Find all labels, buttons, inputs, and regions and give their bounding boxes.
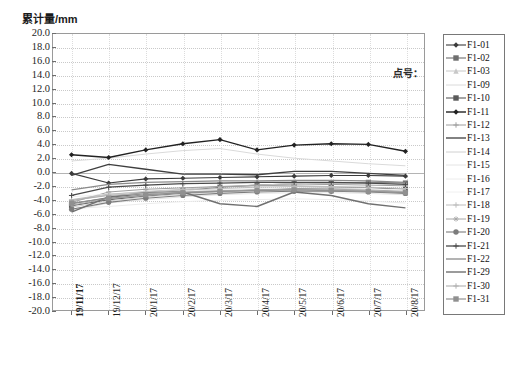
legend-item-label: F1-19 [467,213,490,225]
x-tick-label: 19/12/17 [112,283,122,317]
legend-swatch [445,92,467,104]
legend-item-F1-10[interactable]: F1-10 [444,92,504,105]
legend-item-F1-29[interactable]: F1-29 [444,266,504,279]
y-tick-label: 6.0 [4,125,50,135]
x-tick-label: 20/1/17 [149,288,159,317]
legend-swatch [445,253,467,265]
legend-swatch [445,199,467,211]
legend-item-F1-15[interactable]: F1-15 [444,159,504,172]
legend-swatch [445,132,467,144]
x-tick-mark [406,311,407,315]
y-tick-label: 12.0 [4,84,50,94]
legend-item-label: F1-18 [467,199,490,211]
legend-item-F1-20[interactable]: F1-20 [444,225,504,238]
y-tick-mark [52,255,56,256]
legend-item-F1-01[interactable]: F1-01 [444,38,504,51]
y-tick-label: -18.0 [4,292,50,302]
legend-item-F1-16[interactable]: F1-16 [444,172,504,185]
legend-item-label: F1-20 [467,226,490,238]
plot-area [52,33,425,311]
x-tick-label: 20/6/17 [336,288,346,317]
legend-item-F1-22[interactable]: F1-22 [444,252,504,265]
y-tick-label: 20.0 [4,28,50,38]
legend-swatch [445,106,467,118]
legend-item-F1-12[interactable]: F1-12 [444,118,504,131]
y-axis-tick-labels: 20.018.016.014.012.010.08.06.04.02.00.0-… [0,33,50,311]
legend-item-label: F1-12 [467,119,490,131]
legend-item-F1-02[interactable]: F1-02 [444,51,504,64]
y-tick-label: 10.0 [4,98,50,108]
y-tick-mark [52,89,56,90]
y-tick-label: 2.0 [4,153,50,163]
y-tick-mark [52,116,56,117]
legend-item-F1-18[interactable]: F1-18 [444,199,504,212]
legend-item-label: F1-17 [467,186,490,198]
x-tick-mark [257,311,258,315]
y-tick-label: -20.0 [4,306,50,316]
y-tick-label: -8.0 [4,223,50,233]
x-tick-label: 20/7/17 [373,288,383,317]
legend-swatch [445,240,467,252]
x-tick-mark [220,311,221,315]
y-tick-mark [52,75,56,76]
legend-item-label: F1-03 [467,65,490,77]
x-tick-mark [369,311,370,315]
y-tick-mark [52,61,56,62]
legend-swatch [445,280,467,292]
y-tick-mark [52,103,56,104]
y-tick-label: 0.0 [4,167,50,177]
legend-item-label: F1-10 [467,92,490,104]
legend[interactable]: F1-01F1-02F1-03F1-09F1-10F1-11F1-12F1-13… [443,34,505,315]
legend-item-F1-17[interactable]: F1-17 [444,185,504,198]
legend-item-label: F1-15 [467,159,490,171]
legend-item-F1-13[interactable]: F1-13 [444,132,504,145]
legend-swatch [445,293,467,305]
legend-swatch [445,65,467,77]
x-tick-mark [108,311,109,315]
legend-swatch [445,159,467,171]
x-tick-mark [294,311,295,315]
legend-item-F1-14[interactable]: F1-14 [444,145,504,158]
y-tick-mark [52,33,56,34]
legend-item-label: F1-14 [467,146,490,158]
legend-item-F1-21[interactable]: F1-21 [444,239,504,252]
legend-swatch [445,146,467,158]
legend-item-label: F1-09 [467,79,490,91]
legend-item-F1-30[interactable]: F1-30 [444,279,504,292]
y-tick-label: -4.0 [4,195,50,205]
x-tick-label: 20/3/17 [224,288,234,317]
y-tick-mark [52,297,56,298]
y-tick-label: -2.0 [4,181,50,191]
x-tick-mark [71,311,72,315]
legend-item-F1-31[interactable]: F1-31 [444,292,504,305]
y-tick-mark [52,172,56,173]
legend-item-label: F1-30 [467,280,490,292]
x-tick-label: 20/5/17 [298,288,308,317]
legend-swatch [445,79,467,91]
y-tick-label: 8.0 [4,111,50,121]
legend-item-label: F1-02 [467,52,490,64]
legend-item-F1-19[interactable]: F1-19 [444,212,504,225]
y-tick-mark [52,269,56,270]
y-tick-mark [52,200,56,201]
x-tick-label: 20/8/17 [410,288,420,317]
legend-item-F1-09[interactable]: F1-09 [444,78,504,91]
y-tick-label: 16.0 [4,56,50,66]
x-tick-mark [145,311,146,315]
legend-item-F1-03[interactable]: F1-03 [444,65,504,78]
y-tick-label: -6.0 [4,209,50,219]
series-F1-09 [72,149,406,166]
y-tick-label: -14.0 [4,264,50,274]
y-axis-title: 累计量/mm [22,10,78,26]
x-tick-mark [332,311,333,315]
legend-swatch [445,52,467,64]
y-tick-label: -10.0 [4,237,50,247]
legend-swatch [445,226,467,238]
y-tick-mark [52,214,56,215]
y-tick-mark [52,47,56,48]
legend-swatch [445,119,467,131]
legend-item-label: F1-29 [467,266,490,278]
x-tick-label: 19/11/17 [75,284,85,317]
legend-item-F1-11[interactable]: F1-11 [444,105,504,118]
legend-item-label: F1-01 [467,39,490,51]
